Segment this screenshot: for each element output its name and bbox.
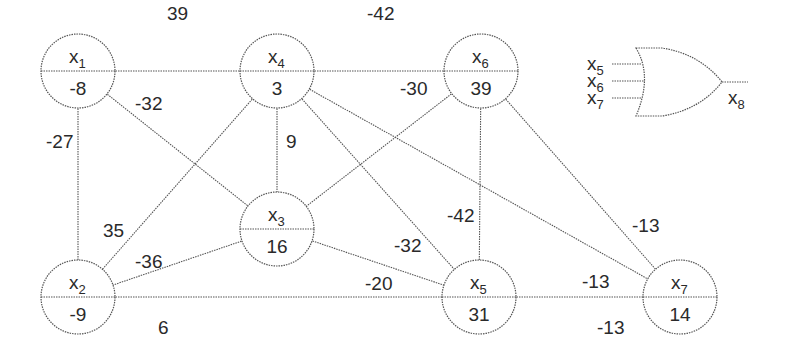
edge-x4-x5	[277, 71, 479, 297]
node-x3[interactable]: x316	[240, 192, 314, 266]
edge-weight-label: -32	[394, 235, 421, 256]
node-x7[interactable]: x714	[643, 260, 717, 334]
edge-weight-label: -42	[447, 205, 474, 226]
edge-weight-label: -20	[365, 273, 392, 294]
node-value-label: 3	[272, 78, 283, 99]
node-x2[interactable]: x2-9	[41, 260, 115, 334]
node-x1[interactable]: x1-8	[41, 34, 115, 108]
edge-weight-label: 39	[167, 3, 188, 24]
node-x4[interactable]: x43	[240, 34, 314, 108]
edge-weight-label: -13	[597, 317, 624, 338]
edge-weight-label: -13	[582, 271, 609, 292]
edge-weight-label: 6	[158, 317, 169, 338]
node-x6[interactable]: x639	[444, 34, 518, 108]
or-gate: x5 x6 x7 x8	[587, 48, 748, 116]
edge-weight-label: -13	[632, 215, 659, 236]
node-value-label: -9	[70, 304, 87, 325]
edge-weight-label: 35	[103, 220, 124, 241]
edge-weight-label: 9	[286, 131, 297, 152]
node-value-label: 16	[266, 236, 287, 257]
or-gate-body	[636, 48, 722, 116]
edge-x1-x3	[78, 71, 277, 229]
edge-weight-label: -27	[46, 131, 73, 152]
node-value-label: -8	[70, 78, 87, 99]
node-value-label: 14	[669, 304, 691, 325]
edge-weight-label: -36	[135, 251, 162, 272]
graph-diagram: 39-27-32-42935-32-13-30-42-13-36-206-13 …	[0, 0, 785, 358]
node-value-label: 31	[468, 304, 489, 325]
edge-weight-label: -32	[135, 93, 162, 114]
edge-weight-label: -30	[400, 78, 427, 99]
or-gate-output-label: x8	[728, 87, 745, 112]
node-x5[interactable]: x531	[442, 260, 516, 334]
edges-layer: 39-27-32-42935-32-13-30-42-13-36-206-13	[46, 3, 680, 338]
edge-weight-label: -42	[367, 3, 394, 24]
node-value-label: 39	[470, 78, 491, 99]
